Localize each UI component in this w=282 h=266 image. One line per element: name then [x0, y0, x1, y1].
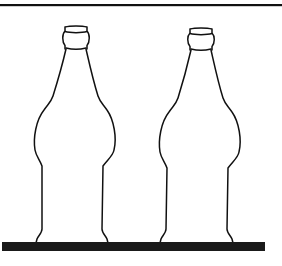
bottle-right-body-left — [159, 50, 191, 243]
bottle-right-lip-base — [191, 49, 211, 50]
bottle-left-body-left — [34, 49, 66, 243]
illustration-svg — [0, 0, 282, 266]
bottle-right-lip-ring — [190, 34, 212, 35]
top-rule — [0, 4, 282, 6]
bottle-left-lip-base — [66, 48, 86, 49]
bottle-left-body-right — [86, 49, 115, 243]
bottle-left-lip — [63, 26, 90, 49]
bottle-left-lip-ring — [65, 32, 87, 33]
bottle-right-body-right — [211, 50, 240, 243]
shelf — [2, 242, 265, 251]
bottle-left — [34, 26, 115, 243]
bottle-right — [159, 28, 240, 243]
bottle-right-lip — [188, 28, 215, 50]
bottles-illustration — [0, 0, 282, 266]
